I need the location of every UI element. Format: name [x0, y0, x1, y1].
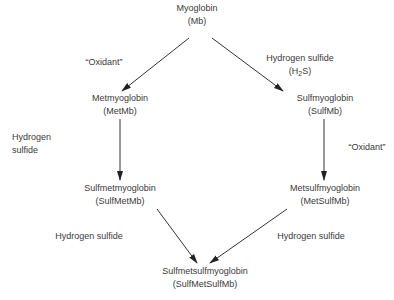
- node-abbr: (SulfMetSulfMb): [162, 278, 248, 291]
- node-name: Sulfmyoglobin: [297, 92, 354, 105]
- node-sulfmetmyoglobin: Sulfmetmyoglobin (SulfMetMb): [84, 182, 156, 208]
- edge-label-text: sulfide: [12, 144, 51, 157]
- edge-label-hydrogen-sulfide-bottom-left: Hydrogen sulfide: [55, 230, 123, 243]
- arrows-layer: [0, 0, 394, 300]
- node-abbr: (MetMb): [92, 105, 148, 118]
- node-name: Myoglobin: [176, 2, 217, 15]
- node-sulfmetsulfmyoglobin: Sulfmetsulfmyoglobin (SulfMetSulfMb): [162, 265, 248, 291]
- node-name: Sulfmetsulfmyoglobin: [162, 265, 248, 278]
- node-name: Metmyoglobin: [92, 92, 148, 105]
- edge-label-text: Hydrogen: [12, 131, 51, 144]
- edge-label-text: Hydrogen sulfide: [266, 52, 334, 65]
- edge-label-formula: (H2S): [266, 65, 334, 78]
- formula-s: S): [302, 66, 311, 76]
- node-sulfmyoglobin: Sulfmyoglobin (SulfMb): [297, 92, 354, 118]
- node-name: Sulfmetmyoglobin: [84, 182, 156, 195]
- node-abbr: (SulfMetMb): [84, 195, 156, 208]
- edge-label-hydrogen-sulfide-h2s: Hydrogen sulfide (H2S): [266, 52, 334, 78]
- edge-label-text: “Oxidant”: [85, 56, 122, 69]
- node-abbr: (SulfMb): [297, 105, 354, 118]
- node-abbr: (MetSulfMb): [290, 195, 360, 208]
- edge-label-oxidant-right: “Oxidant”: [348, 141, 385, 154]
- edge-label-text: “Oxidant”: [348, 141, 385, 154]
- node-metmyoglobin: Metmyoglobin (MetMb): [92, 92, 148, 118]
- edge-label-text: Hydrogen sulfide: [55, 230, 123, 243]
- node-metsulfmyoglobin: Metsulfmyoglobin (MetSulfMb): [290, 182, 360, 208]
- node-myoglobin: Myoglobin (Mb): [176, 2, 217, 28]
- arrow-mb-to-metmb: [122, 38, 189, 91]
- edge-label-oxidant-left: “Oxidant”: [85, 56, 122, 69]
- arrow-metsulfmb-to-final: [210, 209, 287, 263]
- edge-label-hydrogen-sulfide-left-vertical: Hydrogen sulfide: [12, 131, 51, 157]
- edge-label-text: Hydrogen sulfide: [277, 230, 345, 243]
- node-abbr: (Mb): [176, 15, 217, 28]
- arrow-sulfmetmb-to-final: [157, 209, 197, 263]
- node-name: Metsulfmyoglobin: [290, 182, 360, 195]
- formula-h: (H: [289, 66, 299, 76]
- edge-label-hydrogen-sulfide-bottom-right: Hydrogen sulfide: [277, 230, 345, 243]
